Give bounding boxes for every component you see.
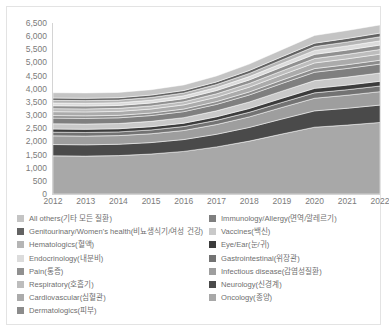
legend-swatch-icon [209, 241, 216, 248]
legend-item[interactable]: Infectious disease(감염성질환) [209, 265, 381, 278]
legend-item[interactable]: Pain(통증) [17, 265, 207, 278]
x-axis-tick: 2020 [305, 196, 324, 206]
x-axis-labels: 2012201320142015201620172018201920202021… [53, 196, 380, 210]
legend-item-label: Cardiovascular(심혈관) [29, 293, 106, 302]
y-axis-labels: 05001,0001,5002,0002,5003,0003,5004,0004… [7, 7, 51, 203]
legend-item-label: Vaccines(백신) [221, 227, 270, 236]
x-axis-tick: 2018 [240, 196, 259, 206]
legend-swatch-icon [17, 281, 24, 288]
x-axis-tick: 2012 [44, 196, 63, 206]
legend-item[interactable]: Dermatologics(피부) [17, 304, 207, 317]
x-axis-tick: 2019 [272, 196, 291, 206]
legend-swatch-icon [17, 228, 24, 235]
legend-column-left: All others(기타 모든 질환)Genitourinary/Women'… [17, 212, 207, 318]
y-axis-tick: 4,000 [26, 84, 47, 93]
legend-item[interactable]: Neurology(신경계) [209, 278, 381, 291]
x-axis-line [52, 194, 380, 195]
y-axis-tick: 6,500 [26, 19, 47, 28]
legend-swatch-icon [209, 215, 216, 222]
legend-swatch-icon [17, 255, 24, 262]
legend-swatch-icon [17, 241, 24, 248]
legend-item[interactable]: Oncology(종양) [209, 291, 381, 304]
y-axis-tick: 500 [33, 176, 47, 185]
legend-column-right: Immunology/Allergy(면역/알레르기)Vaccines(백신)E… [209, 212, 381, 304]
legend-item-label: Immunology/Allergy(면역/알레르기) [221, 214, 337, 223]
y-axis-tick: 3,500 [26, 97, 47, 106]
legend-swatch-icon [209, 255, 216, 262]
legend-item[interactable]: All others(기타 모든 질환) [17, 212, 207, 225]
legend-item-label: Hematologics(혈액) [29, 240, 94, 249]
x-axis-tick: 2013 [76, 196, 95, 206]
stacked-area-chart: 05001,0001,5002,0002,5003,0003,5004,0004… [7, 7, 382, 203]
y-axis-tick: 6,000 [26, 32, 47, 41]
y-axis-tick: 1,500 [26, 150, 47, 159]
legend-swatch-icon [17, 294, 24, 301]
legend-item-label: Oncology(종양) [221, 293, 272, 302]
chart-legend: All others(기타 모든 질환)Genitourinary/Women'… [7, 212, 382, 325]
legend-swatch-icon [17, 268, 24, 275]
legend-item[interactable]: Gastrointestinal(위장관) [209, 252, 381, 265]
legend-item[interactable]: Vaccines(백신) [209, 225, 381, 238]
x-axis-tick: 2017 [207, 196, 226, 206]
y-axis-tick: 4,500 [26, 71, 47, 80]
legend-item[interactable]: Immunology/Allergy(면역/알레르기) [209, 212, 381, 225]
legend-item[interactable]: Endocrinology(내분비) [17, 252, 207, 265]
legend-item-label: Gastrointestinal(위장관) [221, 254, 300, 263]
x-axis-tick: 2022 [371, 196, 389, 206]
y-axis-tick: 2,500 [26, 124, 47, 133]
legend-swatch-icon [209, 294, 216, 301]
area-series-svg [53, 23, 380, 194]
x-axis-tick: 2021 [338, 196, 357, 206]
legend-item-label: All others(기타 모든 질환) [29, 214, 112, 223]
legend-swatch-icon [209, 228, 216, 235]
legend-item-label: Genitourinary/Women's health(비뇨생식기/여성 건강… [29, 227, 203, 236]
legend-swatch-icon [17, 215, 24, 222]
y-axis-tick: 5,000 [26, 58, 47, 67]
y-axis-tick: 5,500 [26, 45, 47, 54]
legend-swatch-icon [209, 281, 216, 288]
legend-item-label: Respiratory(호흡기) [29, 280, 94, 289]
y-axis-tick: 1,000 [26, 163, 47, 172]
chart-card: 05001,0001,5002,0002,5003,0003,5004,0004… [6, 6, 381, 325]
legend-item-label: Endocrinology(내분비) [29, 254, 103, 263]
y-axis-tick: 3,000 [26, 111, 47, 120]
x-axis-tick: 2014 [109, 196, 128, 206]
legend-swatch-icon [209, 268, 216, 275]
legend-item[interactable]: Respiratory(호흡기) [17, 278, 207, 291]
legend-item[interactable]: Eye/Ear(눈/귀) [209, 238, 381, 251]
legend-item[interactable]: Cardiovascular(심혈관) [17, 291, 207, 304]
legend-item-label: Infectious disease(감염성질환) [221, 267, 322, 276]
legend-item-label: Eye/Ear(눈/귀) [221, 240, 269, 249]
legend-item-label: Dermatologics(피부) [29, 306, 97, 315]
legend-item[interactable]: Hematologics(혈액) [17, 238, 207, 251]
y-axis-tick: 2,000 [26, 137, 47, 146]
legend-item-label: Neurology(신경계) [221, 280, 282, 289]
legend-item[interactable]: Genitourinary/Women's health(비뇨생식기/여성 건강… [17, 225, 207, 238]
x-axis-tick: 2016 [174, 196, 193, 206]
legend-item-label: Pain(통증) [29, 267, 63, 276]
plot-area [53, 23, 380, 194]
x-axis-tick: 2015 [142, 196, 161, 206]
legend-swatch-icon [17, 307, 24, 314]
